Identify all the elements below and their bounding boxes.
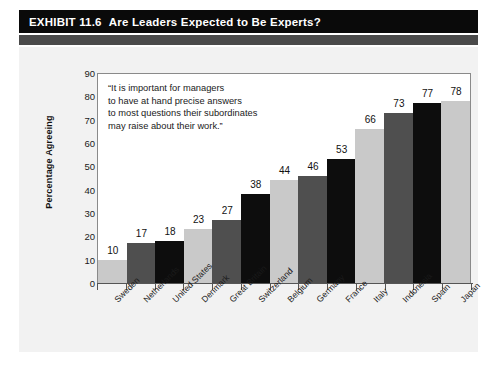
exhibit-header-bar: EXHIBIT 11.6Are Leaders Expected to Be E…	[19, 10, 478, 33]
x-label-slot: Netherlands	[126, 291, 155, 351]
y-tick-label: 20	[55, 231, 95, 242]
bar-value-label: 46	[308, 161, 319, 172]
bar-value-label: 27	[222, 205, 233, 216]
x-axis-tick-labels: SwedenNetherlandsUnited StatesDenmarkGre…	[97, 291, 471, 351]
bar-value-label: 38	[250, 179, 261, 190]
y-axis-tick-labels: 0102030405060708090	[55, 47, 95, 352]
exhibit-panel: Percentage Agreeing 0102030405060708090 …	[19, 47, 478, 352]
x-label-slot: Denmark	[183, 291, 212, 351]
y-axis-title: Percentage Agreeing	[44, 102, 54, 222]
bar-slot: 66	[355, 74, 384, 283]
x-label-slot: Switzerland	[241, 291, 270, 351]
y-tick-label: 0	[55, 278, 95, 289]
y-tick-label: 50	[55, 161, 95, 172]
exhibit-figure: EXHIBIT 11.6Are Leaders Expected to Be E…	[0, 0, 499, 367]
bar-value-label: 10	[107, 245, 118, 256]
x-label-slot: Germany	[298, 291, 327, 351]
y-tick-label: 70	[55, 114, 95, 125]
bar-slot: 78	[441, 74, 470, 283]
quote-line-1: “It is important for managers	[108, 82, 343, 95]
x-label-slot: Japan	[442, 291, 471, 351]
exhibit-header-accent-band	[19, 35, 478, 45]
bar-value-label: 78	[451, 86, 462, 97]
x-label-slot: Spain	[413, 291, 442, 351]
exhibit-number: EXHIBIT 11.6	[29, 16, 102, 28]
x-label-slot: Indonesia	[385, 291, 414, 351]
bar: 10	[98, 260, 127, 283]
bar-value-label: 23	[193, 214, 204, 225]
bar: 27	[212, 220, 241, 283]
y-tick-label: 30	[55, 208, 95, 219]
bar: 53	[327, 159, 356, 283]
y-tick-label: 80	[55, 91, 95, 102]
x-label-slot: Belgium	[270, 291, 299, 351]
bar-value-label: 44	[279, 165, 290, 176]
bar: 73	[384, 113, 413, 283]
bar: 78	[441, 101, 470, 283]
bar: 44	[270, 180, 299, 283]
x-label-slot: United States	[155, 291, 184, 351]
bar-value-label: 73	[393, 98, 404, 109]
y-tick-label: 40	[55, 184, 95, 195]
y-tick-label: 90	[55, 68, 95, 79]
bar-chart: Percentage Agreeing 0102030405060708090 …	[19, 47, 478, 352]
x-label-slot: Italy	[356, 291, 385, 351]
bar-slot: 73	[384, 74, 413, 283]
x-tick-mark	[97, 284, 98, 290]
bar-value-label: 66	[365, 114, 376, 125]
bar: 66	[355, 129, 384, 283]
bar-value-label: 77	[422, 88, 433, 99]
bar-value-label: 18	[164, 226, 175, 237]
bar: 77	[413, 103, 442, 283]
y-tick-label: 10	[55, 254, 95, 265]
plot-area: 10171823273844465366737778 “It is import…	[97, 73, 471, 283]
bar-value-label: 17	[136, 228, 147, 239]
exhibit-title-text: Are Leaders Expected to Be Experts?	[109, 16, 321, 28]
quote-annotation: “It is important for managers to have at…	[108, 82, 343, 132]
bar-slot: 77	[413, 74, 442, 283]
quote-line-4: may raise about their work.”	[108, 120, 343, 133]
bar-value-label: 53	[336, 144, 347, 155]
x-label-slot: Great Britain	[212, 291, 241, 351]
x-label-slot: France	[327, 291, 356, 351]
x-label-slot: Sweden	[97, 291, 126, 351]
exhibit-header-title: EXHIBIT 11.6Are Leaders Expected to Be E…	[19, 16, 321, 28]
quote-line-2: to have at hand precise answers	[108, 95, 343, 108]
quote-line-3: to most questions their subordinates	[108, 107, 343, 120]
y-tick-label: 60	[55, 138, 95, 149]
bar: 46	[298, 176, 327, 283]
